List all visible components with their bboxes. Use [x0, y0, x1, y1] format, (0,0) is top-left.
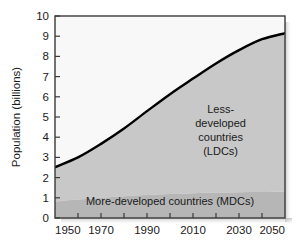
x-tick-label: 2010 [180, 224, 206, 236]
plot-shadow-right [285, 22, 292, 222]
ldc-annotation-line: Less- [207, 103, 234, 115]
ldc-annotation-line: developed [195, 117, 246, 129]
mdc-annotation: More-developed countries (MDCs) [86, 195, 254, 207]
x-axis-tick-labels: 195019701990201020302050 [55, 224, 285, 236]
y-tick-label: 2 [43, 172, 49, 184]
x-tick-label: 1950 [55, 224, 81, 236]
mdc-annotation-line: More-developed countries (MDCs) [86, 195, 254, 207]
y-tick-label: 0 [43, 212, 49, 224]
y-axis-tick-labels: 012345678910 [36, 10, 49, 224]
y-tick-label: 5 [43, 111, 49, 123]
y-tick-label: 7 [43, 71, 49, 83]
y-tick-label: 4 [43, 131, 50, 143]
y-tick-label: 1 [43, 192, 49, 204]
y-tick-label: 6 [43, 91, 49, 103]
ldc-annotation-line: countries [198, 131, 243, 143]
x-tick-label: 1970 [88, 224, 114, 236]
x-tick-label: 2050 [259, 224, 285, 236]
y-tick-label: 8 [43, 50, 49, 62]
x-tick-label: 2030 [226, 224, 252, 236]
y-tick-label: 3 [43, 151, 49, 163]
x-tick-label: 1990 [134, 224, 160, 236]
y-axis-title: Population (billions) [10, 67, 22, 168]
y-tick-label: 10 [36, 10, 49, 22]
chart-canvas: 012345678910 195019701990201020302050 Po… [0, 0, 304, 252]
population-projection-chart-figure: 012345678910 195019701990201020302050 Po… [0, 0, 304, 252]
y-tick-label: 9 [43, 30, 49, 42]
ldc-annotation-line: (LDCs) [203, 145, 238, 157]
